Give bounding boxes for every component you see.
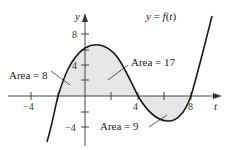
y-tick-label-8: 8 bbox=[72, 29, 77, 40]
curve-equation: y = f(t) bbox=[145, 10, 176, 23]
shaded-area-mid bbox=[85, 45, 138, 96]
y-tick-label-neg4: −4 bbox=[65, 122, 76, 133]
y-axis-label: y bbox=[74, 10, 80, 22]
x-axis-arrow-icon bbox=[213, 93, 222, 99]
x-tick-label-neg4: −4 bbox=[23, 101, 34, 112]
x-tick-label-4: 4 bbox=[133, 101, 138, 112]
chart-canvas: −4 4 8 8 4 −4 y t y = f(t) Area = 8 Area… bbox=[0, 0, 226, 150]
annotation-area-neg: Area = 9 bbox=[100, 120, 139, 132]
shaded-area-left bbox=[58, 48, 85, 96]
x-axis-label: t bbox=[214, 100, 218, 112]
annotation-area-left: Area = 8 bbox=[9, 69, 48, 81]
y-axis-arrow-icon bbox=[82, 13, 88, 22]
annotation-area-mid: Area = 17 bbox=[131, 56, 176, 68]
